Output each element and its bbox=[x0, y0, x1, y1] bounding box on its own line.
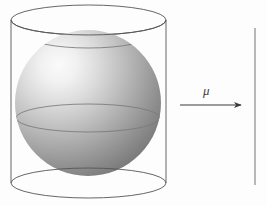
diagram-svg bbox=[0, 0, 267, 206]
sphere bbox=[15, 22, 161, 176]
figure-canvas: μ bbox=[0, 0, 267, 206]
mu-label: μ bbox=[203, 84, 210, 97]
sphere-body bbox=[15, 30, 161, 176]
